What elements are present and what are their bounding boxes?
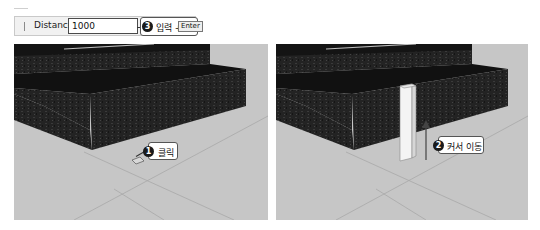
viewport-left[interactable]: 1 클릭	[14, 44, 268, 220]
enter-key-badge: Enter	[178, 21, 203, 32]
toolbar-grip-handle[interactable]	[24, 22, 25, 31]
stairs-scene-left	[14, 44, 268, 220]
callout-step-3: 3 입력 + Enter	[140, 17, 198, 36]
step-badge-2: 2	[433, 140, 444, 151]
step-badge-1: 1	[143, 146, 154, 157]
callout-text-2: 커서 이동	[447, 140, 482, 153]
stairs-scene-right	[276, 44, 528, 220]
callout-step-2: 2 커서 이동	[438, 136, 484, 154]
viewport-right[interactable]: 2 커서 이동	[276, 44, 528, 220]
extruded-box	[400, 84, 416, 161]
callout-text-1: 클릭	[158, 146, 174, 159]
callout-step-1: 1 클릭	[148, 142, 178, 160]
page-fragment-mark	[14, 2, 28, 9]
step-badge-3: 3	[142, 21, 153, 32]
distance-input[interactable]: 1000	[68, 18, 138, 34]
